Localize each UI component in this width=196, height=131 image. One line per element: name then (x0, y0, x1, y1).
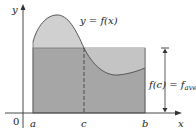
arrow-up-icon (163, 49, 168, 54)
origin-label: 0 (13, 116, 19, 127)
mean-value-diagram: y x 0 a c b y = f(x) f(c) = fave (0, 0, 196, 131)
y-axis-arrow-icon (21, 4, 26, 10)
tick-label-a: a (30, 118, 36, 129)
average-label-sub: ave (185, 84, 196, 92)
x-axis-label: x (178, 118, 184, 129)
y-axis-label: y (11, 4, 18, 15)
arrow-down-icon (163, 108, 168, 113)
tick-label-c: c (81, 118, 87, 129)
x-axis-arrow-icon (175, 111, 182, 116)
average-label-main: f(c) = f (148, 79, 187, 90)
curve-label: y = f(x) (79, 15, 118, 26)
average-label: f(c) = fave (148, 79, 196, 92)
tick-label-b: b (142, 118, 148, 129)
